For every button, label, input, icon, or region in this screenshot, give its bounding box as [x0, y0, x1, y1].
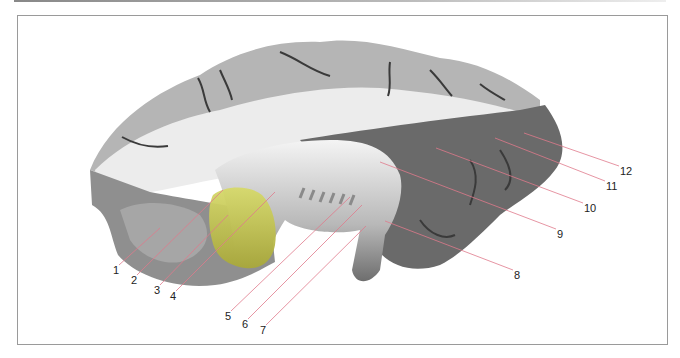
callout-label-6: 6 — [242, 319, 248, 330]
callout-label-12: 12 — [620, 166, 632, 177]
callout-label-7: 7 — [260, 325, 266, 336]
callout-label-1: 1 — [113, 265, 119, 276]
callout-label-11: 11 — [606, 181, 617, 192]
callout-label-2: 2 — [131, 275, 137, 286]
callout-label-5: 5 — [225, 311, 231, 322]
brain-illustration — [0, 0, 680, 358]
callout-label-8: 8 — [514, 270, 520, 281]
callout-label-3: 3 — [154, 285, 160, 296]
callout-label-4: 4 — [170, 291, 176, 302]
callout-label-9: 9 — [557, 229, 563, 240]
callout-label-10: 10 — [584, 203, 596, 214]
